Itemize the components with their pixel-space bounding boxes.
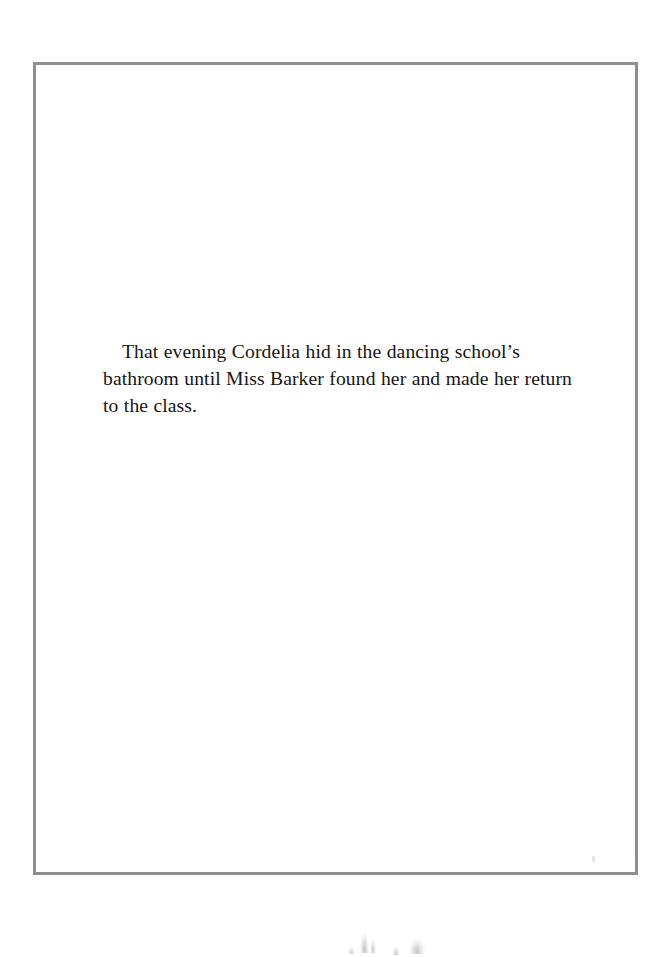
scanned-page: That evening Cordelia hid in the dancing… xyxy=(0,0,656,957)
scan-artifact-bleed xyxy=(370,938,376,953)
scan-artifact-bleed xyxy=(392,946,400,955)
body-text-block: That evening Cordelia hid in the dancing… xyxy=(103,338,579,420)
scan-artifact-bleed xyxy=(360,931,369,953)
scan-artifact-bleed xyxy=(409,938,425,954)
body-paragraph: That evening Cordelia hid in the dancing… xyxy=(103,338,579,420)
page-border-frame xyxy=(33,62,638,875)
scan-artifact-bleed xyxy=(348,946,355,954)
